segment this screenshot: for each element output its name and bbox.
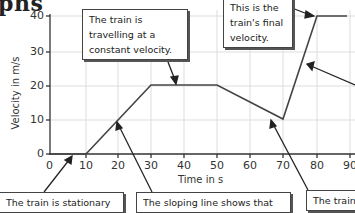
x-tick-0: 0 [46, 159, 53, 172]
y-tick-20: 20 [30, 79, 44, 92]
x-tick-80: 80 [310, 159, 324, 172]
x-axis-label: Time in s [178, 174, 223, 185]
note-constant-velocity: The train is travelling at a constant ve… [82, 9, 188, 60]
x-tick-60: 60 [243, 159, 257, 172]
y-tick-40: 40 [30, 9, 44, 22]
y-tick-10: 10 [30, 113, 44, 126]
x-tick-70: 70 [276, 159, 290, 172]
x-tick-20: 20 [111, 159, 125, 172]
x-tick-10: 10 [79, 159, 93, 172]
note-stationary: The train is stationary [0, 192, 124, 213]
x-tick-50: 50 [210, 159, 224, 172]
note-final-velocity: This is the train's final velocity. [223, 0, 293, 48]
y-axis-label: Velocity in m/s [10, 56, 21, 129]
y-tick-0: 0 [37, 147, 44, 160]
note-train: The train [306, 190, 355, 211]
note-sloping-line: The sloping line shows that [136, 192, 291, 213]
x-tick-30: 30 [144, 159, 158, 172]
x-tick-90: 90 [343, 159, 355, 172]
y-tick-30: 30 [30, 45, 44, 58]
x-tick-40: 40 [177, 159, 191, 172]
